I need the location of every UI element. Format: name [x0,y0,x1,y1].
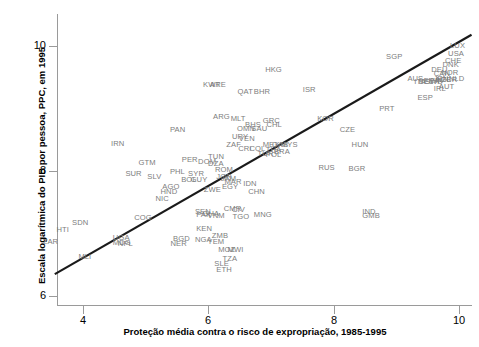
data-point-label: OMN [237,125,255,133]
data-point-label: CHN [248,188,265,196]
data-point-label: GTM [139,159,156,167]
data-point-label: VEN [239,135,255,143]
data-point-label: MWI [228,246,244,254]
data-point-label: PER [182,156,198,164]
data-point-label: KEN [196,225,212,233]
data-point-label: MLI [78,253,91,261]
data-point-label: SLV [147,173,161,181]
data-point-label: SUR [125,170,141,178]
data-point-label: ZWE [204,186,221,194]
data-point-label: HTI [56,226,69,234]
data-point-label: SYR [188,170,204,178]
data-point-label: MNG [254,211,272,219]
data-point-label: RUS [318,164,334,172]
data-point-label: JOR [216,173,232,181]
data-point-label: ARG [213,113,230,121]
data-point-label: BRA [274,148,290,156]
data-point-labels-layer: ZARHTISDNMLIUGAMDGNPLSURGTMIRNCOGSLVNICH… [0,0,479,347]
data-point-label: PAN [170,126,185,134]
data-point-label: NPL [118,240,133,248]
data-point-label: ESP [417,94,433,102]
data-point-label: SGP [386,53,402,61]
data-point-label: ARE [210,81,226,89]
data-point-label: ZAR [43,238,59,246]
data-point-label: SDN [72,219,88,227]
data-point-label: PRT [379,105,394,113]
data-point-label: USA [448,50,464,58]
data-point-label: NER [171,240,187,248]
data-point-label: VNM [207,212,224,220]
data-point-label: CHE [445,57,461,65]
data-point-label: MLT [231,115,246,123]
data-point-label: IRN [111,140,124,148]
data-point-label: QAT [238,88,253,96]
scatter-plot-figure: Escala logarítmica do PIB por pessoa, PP… [0,0,479,347]
data-point-label: MYS [281,141,298,149]
data-point-label: CHL [266,121,282,129]
data-point-label: DZA [208,160,224,168]
data-point-label: CZE [340,126,356,134]
data-point-label: HUN [352,141,369,149]
data-point-label: ETH [216,266,232,274]
data-point-label: KOR [317,115,334,123]
data-point-label: BHR [254,88,270,96]
data-point-label: LUX [450,42,465,50]
data-point-label: HKG [265,66,282,74]
data-point-label: AGO [162,183,179,191]
data-point-label: TGO [233,213,250,221]
data-point-label: AUT [439,83,455,91]
data-point-label: ISR [303,86,316,94]
data-point-label: IDN [243,180,256,188]
data-point-label: COG [134,214,152,222]
data-point-label: GMB [362,212,380,220]
data-point-label: BGR [348,165,365,173]
